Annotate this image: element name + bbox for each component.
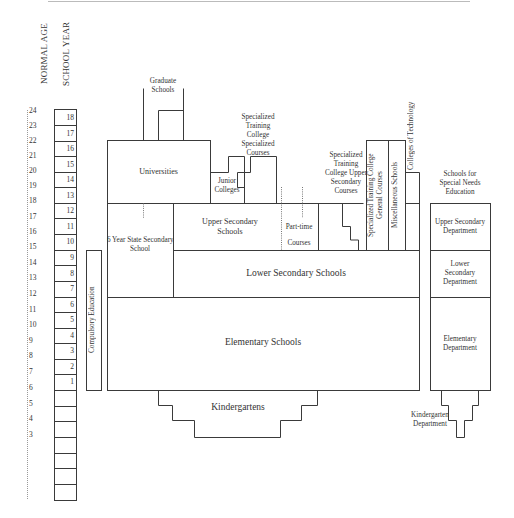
kindergarten-department-label: Kindergarten Department (405, 411, 455, 429)
school-year-label: 13 (56, 191, 74, 200)
specialized-courses-label: Specialized Training College Specialized… (230, 113, 286, 158)
age-label: 19 (29, 181, 43, 190)
graduate-schools-label: Graduate Schools (138, 77, 188, 95)
school-year-label: 7 (56, 284, 74, 293)
part-time-courses-label: Part-time (282, 223, 316, 232)
school-year-label: 12 (56, 206, 74, 215)
junior-colleges-label: Junior Colleges (210, 177, 244, 195)
colleges-of-technology-box (406, 173, 420, 251)
age-label: 7 (29, 367, 43, 376)
age-label: 14 (29, 258, 43, 267)
kindergartens-box (159, 391, 318, 438)
school-year-label: 16 (56, 144, 74, 153)
age-label: 20 (29, 166, 43, 175)
school-year-header: SCHOOL YEAR (62, 18, 71, 90)
school-year-label: 6 (56, 300, 74, 309)
graduate-schools-box (144, 89, 184, 141)
age-label: 16 (29, 227, 43, 236)
normal-age-header: NORMAL AGE (40, 18, 49, 90)
age-label: 9 (29, 336, 43, 345)
upper-secondary-schools-label: Upper Secondary Schools (180, 217, 280, 236)
age-label: 3 (29, 430, 43, 439)
part-time-courses-label-2: Courses (282, 239, 316, 248)
special-needs-title: Schools for Special Needs Education (425, 170, 495, 197)
age-label: 8 (29, 351, 43, 360)
age-label: 5 (29, 399, 43, 408)
universities-label: Universities (107, 167, 210, 177)
school-year-label: 9 (56, 253, 74, 262)
school-system-diagram (0, 0, 514, 518)
school-year-label: 8 (56, 269, 74, 278)
age-label: 10 (29, 320, 43, 329)
age-label: 24 (29, 106, 43, 115)
six-year-secondary-label: 6 Year State Secondary School (107, 236, 173, 254)
kindergartens-label: Kindergartens (158, 402, 318, 413)
age-label: 13 (29, 273, 43, 282)
school-year-label: 18 (56, 113, 74, 122)
upper-secondary-courses-label: Specialized Training College Upper Secon… (318, 151, 374, 196)
age-label: 15 (29, 242, 43, 251)
age-label: 6 (29, 383, 43, 392)
age-label: 18 (29, 196, 43, 205)
lower-secondary-schools-label: Lower Secondary Schools (173, 268, 419, 279)
school-year-label: 5 (56, 315, 74, 324)
elementary-department-label: Elementary Department (430, 335, 490, 353)
lower-secondary-department-label: Lower Secondary Department (430, 260, 490, 287)
age-label: 12 (29, 289, 43, 298)
age-label: 23 (29, 121, 43, 130)
colleges-of-technology-label: Colleges of Technology (407, 92, 417, 170)
age-label: 17 (29, 212, 43, 221)
general-courses-label: Specialized Training College General Cou… (367, 142, 388, 248)
school-year-label: 15 (56, 160, 74, 169)
school-year-label: 14 (56, 175, 74, 184)
age-label: 11 (29, 305, 43, 314)
school-year-label: 11 (56, 222, 74, 231)
miscellaneous-schools-label: Miscellaneous Schools (391, 142, 403, 248)
age-label: 22 (29, 136, 43, 145)
school-year-label: 2 (56, 362, 74, 371)
school-year-label: 4 (56, 331, 74, 340)
upper-secondary-department-label: Upper Secondary Department (430, 218, 490, 236)
school-year-label: 10 (56, 237, 74, 246)
elementary-schools-label: Elementary Schools (107, 337, 419, 348)
school-year-label: 1 (56, 377, 74, 386)
age-label: 4 (29, 414, 43, 423)
age-label: 21 (29, 151, 43, 160)
school-year-label: 17 (56, 129, 74, 138)
compulsory-education-label: Compulsory Education (88, 254, 100, 386)
school-year-label: 3 (56, 346, 74, 355)
